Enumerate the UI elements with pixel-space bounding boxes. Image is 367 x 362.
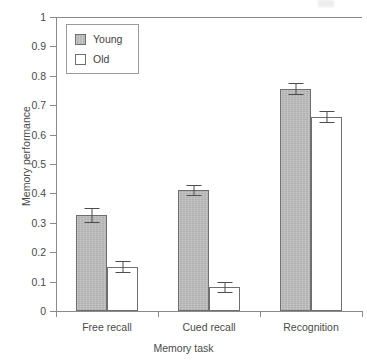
y-axis-tick-label: 0.9 [31, 41, 46, 51]
error-bar-cap-top [186, 185, 201, 186]
x-axis-tick [158, 311, 159, 317]
y-axis-tick [50, 76, 56, 77]
y-axis-tick [50, 252, 56, 253]
y-axis-tick [50, 164, 56, 165]
error-bar-cap-top [288, 83, 303, 84]
legend: Young Old [66, 24, 139, 74]
y-axis-tick [50, 105, 56, 106]
bar-old-recognition [311, 117, 342, 311]
error-bar-young-recognition [280, 83, 311, 95]
legend-label-young: Young [93, 33, 122, 45]
y-axis-tick-label: 1 [40, 12, 46, 22]
x-axis-title: Memory task [0, 342, 367, 354]
error-bar-cap-top [319, 111, 334, 112]
y-axis-tick [50, 193, 56, 194]
error-bar-cap-bottom [186, 195, 201, 196]
error-bar-cap-bottom [319, 122, 334, 123]
legend-label-old: Old [93, 53, 109, 65]
y-axis-tick-label: 0.4 [31, 188, 46, 198]
scan-artifact [318, 0, 334, 7]
y-axis-tick [50, 223, 56, 224]
x-axis-category-label: Free recall [82, 321, 132, 333]
error-bar-old-recognition [311, 111, 342, 123]
y-axis-tick [50, 135, 56, 136]
error-bar-old-free-recall [107, 261, 138, 273]
y-axis-tick-label: 0.2 [31, 247, 46, 257]
error-bar-cap-bottom [217, 292, 232, 293]
x-axis-category-label: Recognition [283, 321, 338, 333]
x-axis-tick [56, 311, 57, 317]
x-axis-line [56, 311, 362, 312]
error-bar-cap-top [217, 282, 232, 283]
legend-item-old: Old [75, 53, 109, 65]
error-bar-cap-top [115, 261, 130, 262]
bar-young-cued-recall [178, 190, 209, 311]
y-axis-tick-label: 0.8 [31, 71, 46, 81]
y-axis-title: Memory performance [20, 76, 32, 236]
legend-item-young: Young [75, 33, 122, 45]
y-axis-tick-label: 0.3 [31, 218, 46, 228]
x-axis-tick [260, 311, 261, 317]
legend-swatch-young [75, 34, 86, 45]
error-bar-cap-bottom [84, 222, 99, 223]
y-axis-tick-label: 0.1 [31, 277, 46, 287]
x-axis-tick [362, 311, 363, 317]
bar-young-recognition [280, 89, 311, 311]
error-bar-young-free-recall [76, 208, 107, 223]
y-axis-tick-label: 0.7 [31, 100, 46, 110]
y-axis-tick-label: 0.6 [31, 130, 46, 140]
y-axis-tick-label: 0.5 [31, 159, 46, 169]
legend-swatch-old [75, 54, 86, 65]
bar-old-free-recall [107, 267, 138, 311]
error-bar-cap-bottom [115, 272, 130, 273]
y-axis-tick [50, 46, 56, 47]
error-bar-young-cued-recall [178, 185, 209, 197]
error-bar-cap-top [84, 208, 99, 209]
x-axis-category-label: Cued recall [182, 321, 235, 333]
error-bar-old-cued-recall [209, 282, 240, 294]
error-bar-cap-bottom [288, 94, 303, 95]
error-bar-stem [91, 208, 92, 223]
y-axis-tick [50, 17, 56, 18]
y-axis-tick-label: 0 [40, 306, 46, 316]
bar-chart-figure: Memory performance 00.10.20.30.40.50.60.… [0, 0, 367, 362]
y-axis-tick [50, 282, 56, 283]
bar-young-free-recall [76, 215, 107, 311]
